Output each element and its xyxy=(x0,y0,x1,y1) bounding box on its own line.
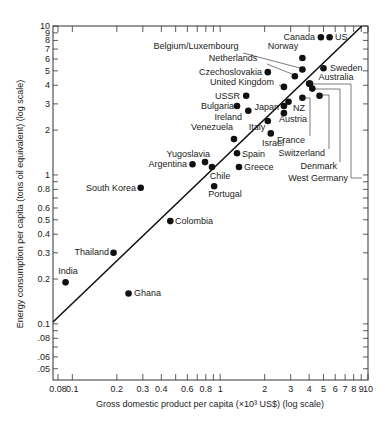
scatter-chart: 0.080.10.20.30.40.60.812345678910.05.06.… xyxy=(0,0,392,430)
x-tick-label: 1 xyxy=(218,384,223,394)
x-tick-label: 0.3 xyxy=(137,384,150,394)
x-tick-label: 0.4 xyxy=(155,384,168,394)
point-label-spain: Spain xyxy=(242,149,265,159)
x-tick-label: 7 xyxy=(343,384,348,394)
point-label-norway: Norway xyxy=(268,41,299,51)
point-label-india: India xyxy=(58,266,78,276)
y-tick-label: .06 xyxy=(37,352,50,362)
x-tick-label: 10 xyxy=(363,384,373,394)
point-label-nz: NZ xyxy=(293,103,305,113)
data-point-us xyxy=(326,34,333,41)
data-point-india xyxy=(62,279,69,286)
data-point-italy xyxy=(265,118,272,125)
data-point-norway xyxy=(299,55,306,62)
x-tick-label: 0.8 xyxy=(200,384,213,394)
point-label-chile: Chile xyxy=(210,171,231,181)
leader-line-switzerland xyxy=(319,95,329,149)
point-label-denmark: Denmark xyxy=(300,161,337,171)
x-tick-label: 6 xyxy=(333,384,338,394)
y-tick-label: 1 xyxy=(45,170,50,180)
point-label-portugal: Portugal xyxy=(208,189,242,199)
point-label-yugoslavia: Yugoslavia xyxy=(166,149,210,159)
point-label-ireland: Ireland xyxy=(214,112,242,122)
y-tick-label: 0.3 xyxy=(37,248,50,258)
y-tick-label: 5 xyxy=(45,66,50,76)
data-point-chile xyxy=(209,164,216,171)
data-point-south-korea xyxy=(137,184,144,191)
x-tick-label: 5 xyxy=(321,384,326,394)
point-label-colombia: Colombia xyxy=(175,216,213,226)
data-point-denmark xyxy=(309,85,316,92)
data-point-spain xyxy=(234,150,241,157)
point-label-bulgaria: Bulgaria xyxy=(201,101,234,111)
point-label-belgium-luxembourg: Belgium/Luxembourg xyxy=(153,41,238,51)
data-point-ghana xyxy=(125,290,132,297)
data-point-bulgaria xyxy=(234,103,241,110)
data-point-belgium-luxembourg xyxy=(299,66,306,73)
point-label-czechoslovakia: Czechoslovakia xyxy=(199,67,262,77)
data-point-venezuela xyxy=(231,136,238,143)
x-tick-label: 0.08 xyxy=(49,384,67,394)
x-tick-label: 4 xyxy=(307,384,312,394)
data-point-israel xyxy=(267,130,274,137)
y-tick-label: 7 xyxy=(45,44,50,54)
data-point-united-kingdom xyxy=(281,84,288,91)
y-tick-label: 0.2 xyxy=(37,274,50,284)
point-label-west-germany: West Germany xyxy=(288,173,348,183)
data-point-yugoslavia xyxy=(202,159,209,166)
y-tick-label: 10 xyxy=(40,21,50,31)
point-label-austria: Austria xyxy=(279,114,307,124)
x-tick-label: 0.1 xyxy=(66,384,79,394)
data-point-colombia xyxy=(167,218,174,225)
point-label-venezuela: Venezuela xyxy=(191,122,233,132)
point-label-italy: Italy xyxy=(249,122,266,132)
y-tick-label: 0.8 xyxy=(37,184,50,194)
y-tick-label: 0.1 xyxy=(37,319,50,329)
y-axis-title: Energy consumption per capita (tons oil … xyxy=(15,80,25,329)
y-tick-label: 6 xyxy=(45,54,50,64)
data-point-greece xyxy=(236,164,243,171)
x-tick-label: 0.6 xyxy=(181,384,194,394)
point-label-japan: Japan xyxy=(254,102,279,112)
x-axis-title: Gross domestic product per capita (×10³ … xyxy=(96,399,324,409)
data-point-canada xyxy=(318,34,325,41)
data-point-nz xyxy=(285,98,292,105)
y-tick-label: 2 xyxy=(45,125,50,135)
point-label-switzerland: Switzerland xyxy=(278,148,325,158)
y-tick-label: 0.6 xyxy=(37,203,50,213)
y-tick-label: .05 xyxy=(37,364,50,374)
point-label-us: US xyxy=(335,32,348,42)
x-tick-label: 0.2 xyxy=(111,384,124,394)
point-label-south-korea: South Korea xyxy=(86,183,136,193)
data-point-sweden xyxy=(320,65,327,72)
point-label-israel: Israel xyxy=(262,138,284,148)
point-label-thailand: Thailand xyxy=(74,247,109,257)
point-label-netherlands: Netherlands xyxy=(209,53,258,63)
data-point-ireland xyxy=(245,107,252,114)
point-label-greece: Greece xyxy=(244,162,274,172)
data-point-argentina xyxy=(189,161,196,168)
point-label-australia: Australia xyxy=(318,72,353,82)
point-label-ussr: USSR xyxy=(215,91,241,101)
x-tick-label: 3 xyxy=(288,384,293,394)
point-label-ghana: Ghana xyxy=(134,288,161,298)
y-tick-label: .08 xyxy=(37,333,50,343)
point-label-argentina: Argentina xyxy=(148,159,187,169)
data-point-thailand xyxy=(110,250,117,257)
x-tick-label: 2 xyxy=(262,384,267,394)
x-tick-label: 8 xyxy=(351,384,356,394)
point-label-united-kingdom: United Kingdom xyxy=(210,77,274,87)
y-tick-label: 4 xyxy=(45,80,50,90)
y-tick-label: 3 xyxy=(45,99,50,109)
data-point-netherlands xyxy=(292,73,299,80)
data-point-ussr xyxy=(243,92,250,99)
y-tick-label: 0.4 xyxy=(37,229,50,239)
data-point-czechoslovakia xyxy=(265,69,272,76)
y-tick-label: 0.5 xyxy=(37,215,50,225)
data-point-france xyxy=(299,94,306,101)
data-point-switzerland xyxy=(316,92,323,99)
